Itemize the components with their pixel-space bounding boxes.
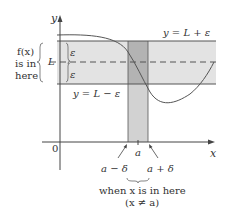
x-axis-label: x	[210, 147, 217, 160]
epsilon-delta-diagram: y x 0 y = L + ε y = L − ε L ε ε f(x) is …	[0, 0, 229, 215]
a-label: a	[135, 147, 141, 158]
delta-strip	[128, 84, 148, 142]
a-minus-delta-arrow-icon	[124, 144, 128, 149]
origin-label: 0	[52, 143, 58, 154]
x-range-brace	[127, 178, 149, 183]
epsilon-upper-label: ε	[70, 47, 75, 58]
upper-band-label: y = L + ε	[162, 27, 210, 38]
lower-band-label: y = L − ε	[72, 88, 120, 99]
y-axis-arrow-icon	[58, 15, 63, 22]
x-range-label-line2: (x ≠ a)	[125, 197, 159, 208]
y-axis-label: y	[50, 12, 58, 25]
fx-label-line1: f(x)	[17, 46, 34, 57]
fx-label-line3: here	[15, 70, 38, 81]
limit-label: L	[47, 56, 55, 67]
x-range-label-line1: when x is in here	[99, 185, 186, 196]
fx-label-line2: is in	[15, 58, 37, 69]
epsilon-lower-label: ε	[70, 69, 75, 80]
a-minus-delta-label: a − δ	[101, 163, 128, 174]
a-plus-delta-arrow-icon	[149, 144, 153, 149]
a-plus-delta-pointer	[150, 146, 158, 158]
a-plus-delta-label: a + δ	[147, 163, 174, 174]
x-axis-arrow-icon	[208, 140, 215, 145]
a-minus-delta-pointer	[118, 146, 126, 158]
